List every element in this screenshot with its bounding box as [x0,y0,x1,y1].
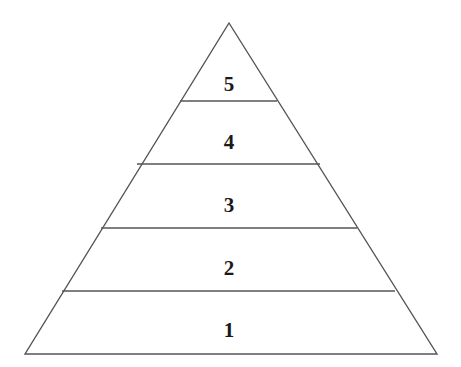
pyramid-figure: 5 4 3 2 1 [0,0,461,367]
pyramid-level-label-1: 1 [224,320,235,341]
pyramid-outline-svg [0,0,461,367]
pyramid-level-label-2: 2 [224,258,235,279]
pyramid-level-label-5: 5 [224,74,235,95]
pyramid-level-label-3: 3 [224,195,235,216]
pyramid-level-label-4: 4 [224,132,235,153]
